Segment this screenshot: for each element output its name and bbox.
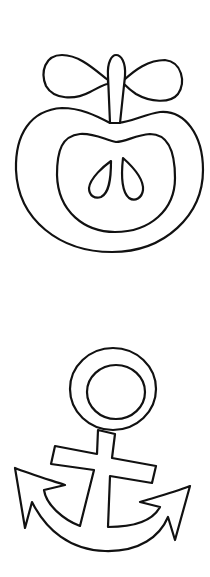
apple-stem: [108, 55, 125, 123]
apple-left-leaf: [44, 55, 108, 97]
coloring-page-canvas: [0, 0, 210, 577]
apple-core: [57, 134, 175, 232]
anchor-body: [15, 430, 190, 551]
anchor-ring-inner: [87, 365, 145, 419]
anchor-drawing: [15, 348, 190, 551]
apple-drawing: [16, 55, 203, 252]
apple-right-leaf: [124, 60, 182, 101]
